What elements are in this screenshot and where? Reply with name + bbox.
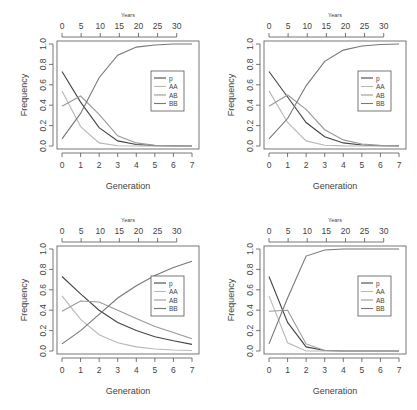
x-tick-label: 4 bbox=[341, 365, 346, 375]
legend-entry-p: p bbox=[169, 75, 173, 83]
x-tick-label: 3 bbox=[322, 365, 327, 375]
y-axis-label: Frequency bbox=[19, 73, 29, 116]
chart-grid: 01234567Generation051015202530Years0.00.… bbox=[0, 0, 417, 410]
y-tick-label: 0.0 bbox=[245, 345, 255, 357]
legend-entry-BB: BB bbox=[376, 100, 385, 107]
top-tick-label: 25 bbox=[153, 226, 163, 236]
top-tick-label: 15 bbox=[322, 226, 332, 236]
x-tick-label: 0 bbox=[60, 365, 65, 375]
top-tick-label: 20 bbox=[341, 226, 351, 236]
y-tick-label: 0.2 bbox=[38, 324, 48, 336]
top-tick-label: 10 bbox=[303, 226, 313, 236]
top-tick-label: 15 bbox=[115, 226, 125, 236]
legend-entry-AA: AA bbox=[376, 288, 385, 295]
top-tick-label: 15 bbox=[115, 21, 125, 31]
y-tick-label: 1.0 bbox=[38, 38, 48, 50]
top-tick-label: 5 bbox=[286, 21, 291, 31]
x-tick-label: 4 bbox=[341, 160, 346, 170]
x-tick-label: 7 bbox=[190, 160, 195, 170]
chart-panel-4: 01234567Generation051015202530Years0.00.… bbox=[207, 205, 415, 410]
y-tick-label: 0.8 bbox=[38, 58, 48, 70]
top-tick-label: 10 bbox=[96, 226, 106, 236]
x-tick-label: 3 bbox=[322, 160, 327, 170]
top-axis-label: Years bbox=[328, 12, 342, 18]
y-tick-label: 0.0 bbox=[245, 140, 255, 152]
legend: pAAABBB bbox=[358, 276, 391, 316]
x-tick-label: 1 bbox=[285, 365, 290, 375]
y-tick-label: 1.0 bbox=[245, 38, 255, 50]
top-axis-label: Years bbox=[328, 217, 342, 223]
x-axis-generation: 01234567Generation bbox=[60, 358, 195, 396]
x-axis-label: Generation bbox=[106, 181, 151, 191]
x-axis-generation: 01234567Generation bbox=[60, 153, 195, 191]
top-tick-label: 0 bbox=[267, 21, 272, 31]
x-tick-label: 0 bbox=[60, 160, 65, 170]
x-tick-label: 7 bbox=[190, 365, 195, 375]
top-tick-label: 20 bbox=[134, 226, 144, 236]
x-tick-label: 6 bbox=[171, 365, 176, 375]
y-tick-label: 0.8 bbox=[245, 58, 255, 70]
top-axis-years: 051015202530Years bbox=[60, 12, 182, 37]
x-tick-label: 2 bbox=[304, 160, 309, 170]
x-tick-label: 1 bbox=[78, 160, 83, 170]
y-tick-label: 0.0 bbox=[38, 345, 48, 357]
x-tick-label: 4 bbox=[134, 365, 139, 375]
y-axis-frequency: 0.00.20.40.60.81.0Frequency bbox=[19, 243, 53, 357]
x-tick-label: 3 bbox=[115, 160, 120, 170]
x-tick-label: 6 bbox=[378, 160, 383, 170]
x-axis-generation: 01234567Generation bbox=[267, 153, 402, 191]
legend-entry-AB: AB bbox=[376, 297, 385, 304]
legend-entry-p: p bbox=[376, 280, 380, 288]
legend-entry-p: p bbox=[376, 75, 380, 83]
x-tick-label: 5 bbox=[359, 365, 364, 375]
x-tick-label: 3 bbox=[115, 365, 120, 375]
y-tick-label: 0.6 bbox=[38, 284, 48, 296]
chart-panel-3: 01234567Generation051015202530Years0.00.… bbox=[0, 205, 208, 410]
x-tick-label: 0 bbox=[267, 365, 272, 375]
chart-panel-1: 01234567Generation051015202530Years0.00.… bbox=[0, 0, 208, 205]
x-tick-label: 2 bbox=[97, 160, 102, 170]
top-tick-label: 0 bbox=[60, 21, 65, 31]
x-tick-label: 5 bbox=[152, 160, 157, 170]
top-tick-label: 25 bbox=[360, 21, 370, 31]
top-tick-label: 15 bbox=[322, 21, 332, 31]
legend-entry-BB: BB bbox=[376, 305, 385, 312]
x-tick-label: 1 bbox=[285, 160, 290, 170]
x-axis-label: Generation bbox=[106, 386, 151, 396]
top-axis-years: 051015202530Years bbox=[267, 217, 389, 242]
top-tick-label: 0 bbox=[267, 226, 272, 236]
x-tick-label: 0 bbox=[267, 160, 272, 170]
y-tick-label: 1.0 bbox=[38, 243, 48, 255]
x-tick-label: 6 bbox=[171, 160, 176, 170]
y-axis-frequency: 0.00.20.40.60.81.0Frequency bbox=[19, 38, 53, 152]
x-axis-generation: 01234567Generation bbox=[267, 358, 402, 396]
y-tick-label: 0.0 bbox=[38, 140, 48, 152]
top-tick-label: 25 bbox=[360, 226, 370, 236]
top-tick-label: 5 bbox=[79, 21, 84, 31]
y-tick-label: 0.6 bbox=[245, 79, 255, 91]
legend-entry-BB: BB bbox=[169, 100, 178, 107]
y-axis-label: Frequency bbox=[226, 278, 236, 321]
x-axis-label: Generation bbox=[313, 181, 358, 191]
top-tick-label: 0 bbox=[60, 226, 65, 236]
x-tick-label: 7 bbox=[397, 160, 402, 170]
top-axis-years: 051015202530Years bbox=[60, 217, 182, 242]
legend-entry-AB: AB bbox=[376, 92, 385, 99]
x-tick-label: 6 bbox=[378, 365, 383, 375]
y-tick-label: 0.6 bbox=[245, 284, 255, 296]
legend-entry-BB: BB bbox=[169, 305, 178, 312]
x-axis-label: Generation bbox=[313, 386, 358, 396]
y-tick-label: 0.6 bbox=[38, 79, 48, 91]
legend-entry-AA: AA bbox=[169, 83, 178, 90]
x-tick-label: 7 bbox=[397, 365, 402, 375]
y-axis-label: Frequency bbox=[226, 73, 236, 116]
x-tick-label: 5 bbox=[359, 160, 364, 170]
y-tick-label: 0.4 bbox=[245, 99, 255, 111]
y-tick-label: 0.2 bbox=[245, 324, 255, 336]
top-tick-label: 20 bbox=[134, 21, 144, 31]
top-tick-label: 30 bbox=[172, 21, 182, 31]
y-tick-label: 1.0 bbox=[245, 243, 255, 255]
x-tick-label: 2 bbox=[97, 365, 102, 375]
top-tick-label: 20 bbox=[341, 21, 351, 31]
legend-entry-AB: AB bbox=[169, 92, 178, 99]
